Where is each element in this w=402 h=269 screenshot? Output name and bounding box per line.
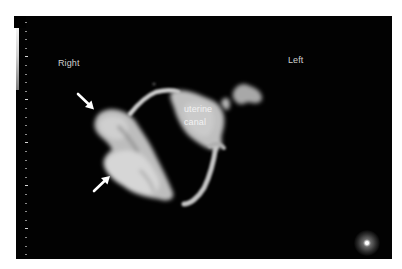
lower-curved-band	[184, 144, 224, 204]
speck	[153, 83, 156, 86]
left-horn-fragment	[221, 84, 262, 110]
label-uterine-canal: uterine canal	[184, 103, 212, 129]
label-right-side: Right	[58, 58, 80, 68]
label-uterine-canal-line2: canal	[184, 116, 212, 129]
upper-band	[130, 90, 178, 114]
ultrasound-render	[0, 0, 402, 269]
light-source-orb-icon[interactable]	[354, 230, 380, 256]
upper-arrow-icon	[78, 94, 94, 110]
right-horn-mass	[94, 109, 173, 200]
label-left-side: Left	[288, 55, 303, 65]
label-uterine-canal-line1: uterine	[184, 103, 212, 116]
lower-arrow-icon	[94, 176, 110, 191]
